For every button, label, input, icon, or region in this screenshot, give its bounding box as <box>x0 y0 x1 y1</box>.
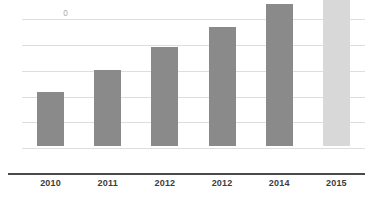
bar[interactable] <box>151 47 178 146</box>
bar-group <box>0 0 373 175</box>
x-axis-line <box>8 173 365 175</box>
x-axis-tick-label: 2011 <box>78 178 138 188</box>
bar[interactable] <box>323 0 350 146</box>
x-axis-tick-label: 2010 <box>21 178 81 188</box>
bar[interactable] <box>37 92 64 146</box>
bar[interactable] <box>209 27 236 146</box>
bar[interactable] <box>266 4 293 146</box>
bar-chart: 0100,000200,000300,000400,000500,000600,… <box>0 0 373 203</box>
x-axis-tick-label: 2012 <box>135 178 195 188</box>
bar[interactable] <box>94 70 121 146</box>
x-axis-tick-labels: 201020112012201220142015 <box>0 178 373 198</box>
x-axis-tick-label: 2014 <box>249 178 309 188</box>
x-axis-tick-label: 2015 <box>306 178 366 188</box>
x-axis-tick-label: 2012 <box>192 178 252 188</box>
